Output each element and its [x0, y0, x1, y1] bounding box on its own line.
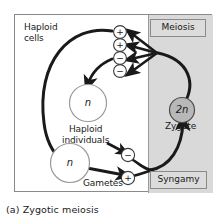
syngamy-join-minus [133, 160, 152, 170]
haploid-lower-ploidy-label: n [62, 157, 78, 168]
haploid-upper-ploidy-label: n [80, 97, 96, 108]
figure-caption: (a) Zygotic meiosis [6, 204, 99, 215]
cell-minus-1-glyph: − [112, 53, 128, 63]
figure-root: + + − − − + n n 2n Haploid cells Haploid… [0, 0, 224, 224]
development-arc-to-upper-haploid [88, 59, 112, 84]
zygote-ploidy-label: 2n [173, 104, 191, 115]
gametes-label: Gametes [83, 178, 123, 189]
haploid-individuals-label: Haploid individuals [62, 124, 109, 145]
zygote-label: Zygote [165, 121, 196, 132]
meiosis-arrows-group [131, 33, 157, 72]
syngamy-tag: Syngamy [150, 171, 207, 189]
gamete-minus-glyph: − [120, 150, 136, 160]
cell-plus-1-glyph: + [112, 27, 128, 37]
cell-plus-2-glyph: + [112, 40, 128, 50]
cell-minus-2-glyph: − [112, 66, 128, 76]
gamete-arrow-plus [87, 168, 124, 175]
meiosis-curve-from-zygote [158, 53, 190, 104]
meiosis-tag: Meiosis [150, 19, 206, 37]
haploid-cells-label: Haploid cells [24, 22, 58, 43]
